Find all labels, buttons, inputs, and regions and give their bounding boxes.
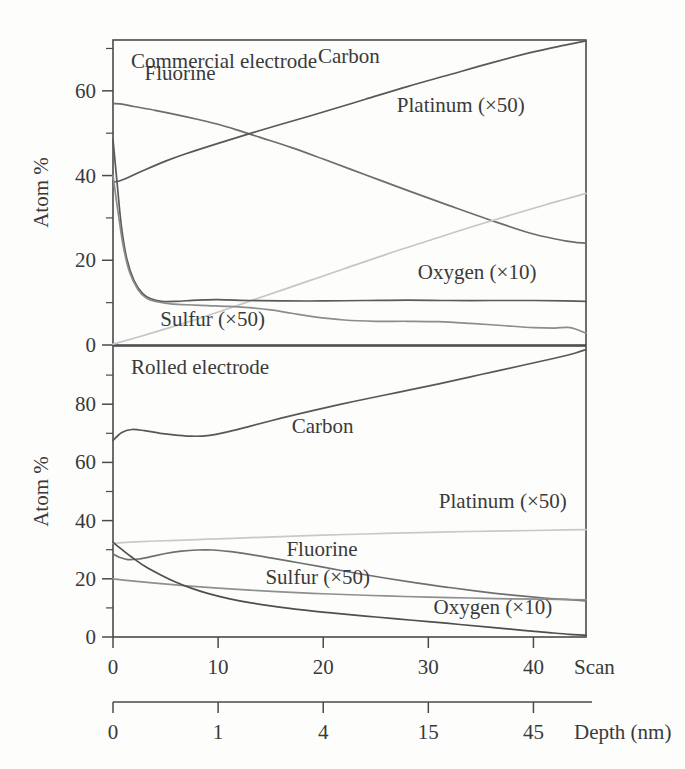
y-tick-label-rolled-electrode-60: 60	[75, 450, 96, 474]
scan-tick-label-20: 20	[313, 655, 334, 679]
panel-title-rolled-electrode: Rolled electrode	[131, 355, 269, 379]
depth-tick-label-0: 0	[108, 720, 119, 744]
chart-panel-rolled-electrode: 020406080CarbonPlatinum (×50)FluorineSul…	[29, 346, 586, 649]
series-label-rolled-electrode-oxygen-10-: Oxygen (×10)	[434, 595, 553, 619]
series-label-rolled-electrode-fluorine: Fluorine	[286, 537, 357, 561]
panel-title-commercial-electrode: Commercial electrode	[131, 49, 317, 73]
y-tick-label-rolled-electrode-20: 20	[75, 567, 96, 591]
series-curve-commercial-electrode-fluorine	[113, 104, 586, 244]
series-label-commercial-electrode-oxygen-10-: Oxygen (×10)	[418, 260, 537, 284]
y-tick-label-commercial-electrode-60: 60	[75, 79, 96, 103]
plot-frame-commercial-electrode	[113, 40, 586, 345]
scan-axis: 010203040Scan	[108, 637, 616, 679]
y-tick-label-rolled-electrode-0: 0	[86, 625, 97, 649]
series-label-rolled-electrode-carbon: Carbon	[292, 414, 354, 438]
depth-tick-label-1: 1	[213, 720, 224, 744]
depth-profile-figure: 0204060FluorineCarbonPlatinum (×50)Oxyge…	[0, 0, 685, 769]
y-axis-title-rolled-electrode: Atom %	[29, 456, 53, 527]
series-label-commercial-electrode-carbon: Carbon	[318, 44, 380, 68]
depth-tick-label-4: 4	[318, 720, 329, 744]
series-label-rolled-electrode-platinum-50-: Platinum (×50)	[439, 489, 567, 513]
scan-tick-label-0: 0	[108, 655, 119, 679]
scan-tick-label-10: 10	[208, 655, 229, 679]
chart-panel-commercial-electrode: 0204060FluorineCarbonPlatinum (×50)Oxyge…	[29, 40, 586, 357]
series-label-commercial-electrode-sulfur-50-: Sulfur (×50)	[160, 307, 265, 331]
y-tick-label-commercial-electrode-0: 0	[86, 333, 97, 357]
scan-tick-label-40: 40	[523, 655, 544, 679]
series-label-rolled-electrode-sulfur-50-: Sulfur (×50)	[265, 565, 370, 589]
depth-tick-label-45: 45	[523, 720, 544, 744]
series-label-commercial-electrode-platinum-50-: Platinum (×50)	[397, 93, 525, 117]
depth-axis-title: Depth (nm)	[574, 720, 671, 744]
y-tick-label-rolled-electrode-40: 40	[75, 509, 96, 533]
y-tick-label-rolled-electrode-80: 80	[75, 392, 96, 416]
depth-tick-label-15: 15	[418, 720, 439, 744]
scan-tick-label-30: 30	[418, 655, 439, 679]
y-tick-label-commercial-electrode-20: 20	[75, 248, 96, 272]
depth-axis: 0141545Depth (nm)	[108, 702, 672, 744]
y-axis-title-commercial-electrode: Atom %	[29, 157, 53, 228]
y-tick-label-commercial-electrode-40: 40	[75, 164, 96, 188]
scan-axis-title: Scan	[574, 655, 615, 679]
figure-root: 0204060FluorineCarbonPlatinum (×50)Oxyge…	[0, 0, 685, 769]
